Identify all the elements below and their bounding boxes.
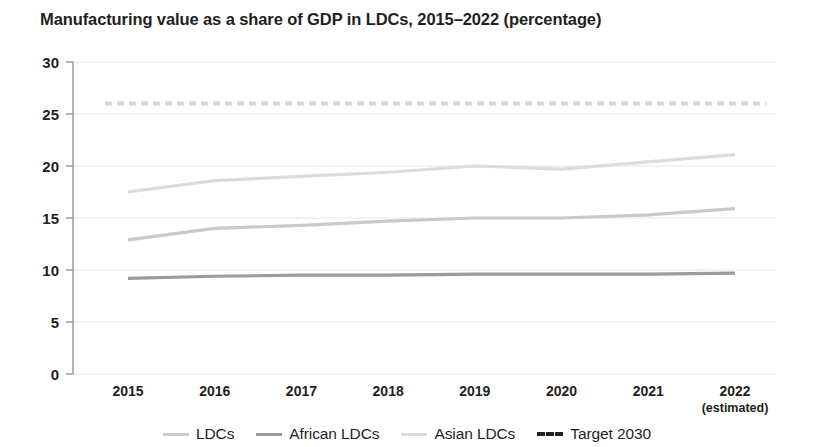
- legend-label: Asian LDCs: [434, 425, 515, 443]
- legend-item-asian-ldcs[interactable]: Asian LDCs: [401, 425, 515, 443]
- y-tick-label: 5: [51, 314, 59, 331]
- x-tick-label: 2018: [373, 383, 404, 399]
- x-tick-label: 2019: [459, 383, 490, 399]
- y-axis: [66, 62, 73, 374]
- chart-legend: LDCsAfrican LDCsAsian LDCsTarget 2030: [0, 421, 814, 447]
- x-tick-label: 2017: [286, 383, 317, 399]
- chart-figure: Manufacturing value as a share of GDP in…: [0, 0, 814, 447]
- y-tick-label: 15: [42, 210, 59, 227]
- y-tick-label: 20: [42, 158, 59, 175]
- data-series: [105, 104, 766, 279]
- legend-item-african-ldcs[interactable]: African LDCs: [256, 425, 379, 443]
- series-line-asian-ldcs: [128, 155, 735, 192]
- legend-item-target-2030[interactable]: Target 2030: [537, 425, 651, 443]
- x-tick-label: 2020: [546, 383, 577, 399]
- series-line-african-ldcs: [128, 273, 735, 278]
- legend-item-ldcs[interactable]: LDCs: [163, 425, 234, 443]
- x-tick-label: 2022: [719, 383, 750, 399]
- y-tick-label: 30: [42, 54, 59, 71]
- x-tick-label: 2021: [633, 383, 664, 399]
- legend-swatch-icon: [401, 433, 427, 436]
- series-line-ldcs: [128, 209, 735, 240]
- y-tick-label: 10: [42, 262, 59, 279]
- x-tick-label: 2016: [199, 383, 230, 399]
- line-chart-plot: 051015202530 201520162017201820192020202…: [0, 0, 814, 420]
- legend-swatch-icon: [256, 433, 282, 436]
- x-tick-sublabel: (estimated): [702, 401, 769, 415]
- legend-swatch-icon: [163, 433, 189, 436]
- x-tick-labels: 20152016201720182019202020212022(estimat…: [112, 383, 768, 415]
- y-tick-label: 25: [42, 106, 59, 123]
- legend-label: LDCs: [196, 425, 234, 443]
- legend-swatch-icon: [537, 432, 563, 436]
- legend-label: Target 2030: [570, 425, 651, 443]
- y-tick-labels: 051015202530: [42, 54, 59, 383]
- y-tick-label: 0: [51, 366, 59, 383]
- gridlines: [73, 62, 776, 374]
- legend-label: African LDCs: [289, 425, 379, 443]
- x-tick-label: 2015: [112, 383, 143, 399]
